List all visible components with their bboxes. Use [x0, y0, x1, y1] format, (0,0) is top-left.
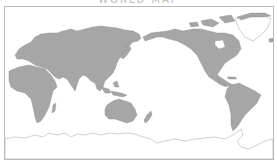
africa-landmass: [9, 65, 57, 123]
iceland-island: [269, 38, 273, 42]
map-title: WORLD MAP: [0, 0, 277, 3]
map-frame: [4, 6, 274, 160]
australia-landmass: [105, 99, 137, 123]
indonesia-islands: [101, 81, 127, 97]
arctic-islands: [189, 15, 235, 27]
madagascar-island: [52, 103, 56, 113]
north-america-landmass: [143, 29, 241, 87]
antarctica-outline: [5, 129, 273, 159]
world-map: [5, 7, 273, 159]
south-america-landmass: [225, 83, 261, 131]
new-zealand-island: [144, 111, 152, 123]
